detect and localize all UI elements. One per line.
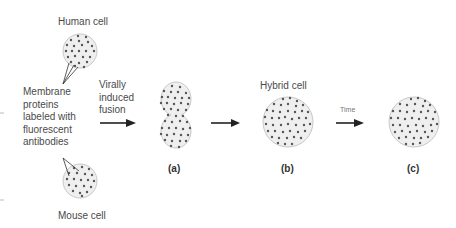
fusion-label: Virally induced fusion [99,79,134,117]
mouse-cell-label: Mouse cell [58,210,106,222]
time-label: Time [340,106,355,113]
human-cell-label: Human cell [58,16,108,28]
arrow-time [336,119,364,127]
step-b-label: (b) [281,163,294,174]
human-cell [63,34,97,68]
hybrid-cell [263,97,313,147]
arrow-fusion [100,119,136,127]
final-cell [389,97,439,147]
mouse-cell [63,164,97,198]
arrow-to-hybrid [211,119,240,127]
step-a-label: (a) [168,163,180,174]
membrane-proteins-label: Membrane proteins labeled with fluoresce… [23,86,76,149]
fused-cell [160,82,191,148]
step-c-label: (c) [407,163,419,174]
hybrid-cell-label: Hybrid cell [260,80,307,92]
